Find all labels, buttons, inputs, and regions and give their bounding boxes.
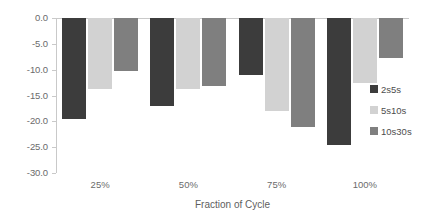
legend-swatch-icon	[370, 85, 378, 93]
bar	[176, 18, 200, 89]
bar	[265, 18, 289, 111]
bar	[239, 18, 263, 75]
y-axis-tick-label: -10.0	[0, 65, 48, 75]
bar	[379, 18, 403, 58]
bar	[62, 18, 86, 119]
bar	[114, 18, 138, 71]
legend-label: 2s5s	[381, 84, 401, 95]
bar	[291, 18, 315, 127]
bar	[88, 18, 112, 89]
bar	[202, 18, 226, 86]
x-axis-tick-label: 75%	[247, 179, 307, 190]
y-axis-tick-label: 0.0	[0, 13, 48, 23]
x-axis-tick-label: 50%	[158, 179, 218, 190]
y-axis-tick-label: -25.0	[0, 142, 48, 152]
x-axis-title: Fraction of Cycle	[56, 199, 409, 211]
bar-group	[56, 18, 144, 173]
legend-swatch-icon	[370, 127, 378, 135]
legend-label: 5s10s	[381, 105, 406, 116]
plot-area	[56, 18, 409, 173]
y-axis-labels: 0.0-5.0-10.0-15.0-20.0-25.0-30.0	[0, 0, 48, 218]
bar-chart: 0.0-5.0-10.0-15.0-20.0-25.0-30.0 25%50%7…	[0, 0, 422, 218]
bar	[150, 18, 174, 106]
x-axis-tick-label: 25%	[70, 179, 130, 190]
bar-group	[233, 18, 321, 173]
bar	[353, 18, 377, 83]
bar-group	[144, 18, 232, 173]
y-axis-tick-mark	[52, 173, 56, 174]
y-axis-tick-label: -30.0	[0, 168, 48, 178]
x-axis-tick-label: 100%	[335, 179, 395, 190]
legend-swatch-icon	[370, 106, 378, 114]
y-axis-tick-label: -20.0	[0, 116, 48, 126]
y-axis-tick-label: -15.0	[0, 91, 48, 101]
bar-group	[321, 18, 409, 173]
bar	[327, 18, 351, 145]
legend-label: 10s30s	[381, 126, 412, 137]
y-axis-tick-label: -5.0	[0, 39, 48, 49]
